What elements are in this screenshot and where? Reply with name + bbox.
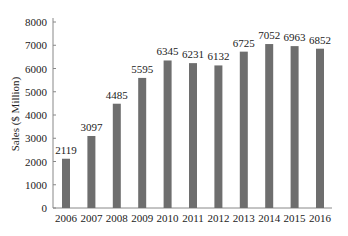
bar bbox=[214, 65, 222, 208]
bar-value-label: 6132 bbox=[207, 50, 229, 62]
bar bbox=[138, 78, 146, 208]
x-tick-label: 2015 bbox=[284, 212, 307, 224]
bar-value-label: 6852 bbox=[309, 34, 331, 46]
y-tick-label: 8000 bbox=[25, 16, 48, 28]
y-tick-label: 6000 bbox=[25, 63, 48, 75]
x-tick-label: 2007 bbox=[80, 212, 103, 224]
x-tick-label: 2011 bbox=[182, 212, 204, 224]
bar bbox=[291, 46, 299, 208]
bar-value-label: 7052 bbox=[258, 29, 280, 41]
x-tick-label: 2012 bbox=[207, 212, 229, 224]
x-tick-label: 2009 bbox=[131, 212, 154, 224]
x-tick-label: 2016 bbox=[309, 212, 332, 224]
bar bbox=[164, 60, 172, 208]
x-tick-label: 2010 bbox=[157, 212, 180, 224]
bar bbox=[113, 104, 121, 208]
y-tick-label: 5000 bbox=[25, 86, 48, 98]
x-tick-label: 2013 bbox=[233, 212, 256, 224]
x-tick-label: 2006 bbox=[55, 212, 78, 224]
bar bbox=[316, 49, 324, 208]
x-tick-label: 2008 bbox=[106, 212, 129, 224]
bar bbox=[87, 136, 95, 208]
bar-chart: 0100020003000400050006000700080002119200… bbox=[0, 0, 348, 236]
y-tick-label: 0 bbox=[42, 202, 48, 214]
bar-value-label: 6963 bbox=[284, 31, 307, 43]
bar-value-label: 6231 bbox=[182, 48, 204, 60]
y-tick-label: 4000 bbox=[25, 109, 48, 121]
bar-value-label: 6345 bbox=[157, 45, 180, 57]
bar-value-label: 4485 bbox=[106, 89, 129, 101]
y-tick-label: 7000 bbox=[25, 39, 48, 51]
bar bbox=[189, 63, 197, 208]
y-tick-label: 3000 bbox=[25, 132, 48, 144]
y-tick-label: 2000 bbox=[25, 156, 48, 168]
bar-value-label: 6725 bbox=[233, 37, 256, 49]
bar bbox=[240, 52, 248, 208]
bar-value-label: 2119 bbox=[55, 144, 77, 156]
bar-value-label: 5595 bbox=[131, 63, 154, 75]
bar-value-label: 3097 bbox=[80, 121, 103, 133]
bar bbox=[265, 44, 273, 208]
y-tick-label: 1000 bbox=[25, 179, 48, 191]
x-tick-label: 2014 bbox=[258, 212, 281, 224]
bar bbox=[62, 159, 70, 208]
